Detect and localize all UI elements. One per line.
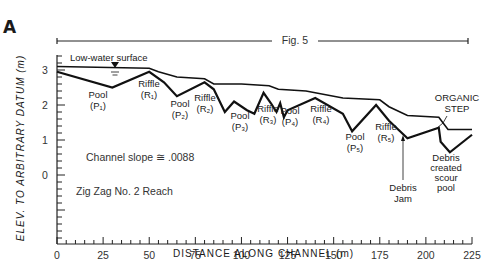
debris-jam-label: Jam: [394, 193, 412, 204]
x-tick-label: 200: [417, 249, 435, 260]
riffle-r4-label: (R₄): [312, 114, 329, 125]
pool-p3-label: Pool: [230, 110, 249, 121]
pool-p2-label: Pool: [170, 98, 189, 109]
scour-pool-label: pool: [437, 182, 455, 193]
x-tick-label: 0: [54, 249, 60, 260]
reach-name-label: Zig Zag No. 2 Reach: [76, 185, 173, 197]
pool-p4-label: Pool: [280, 105, 299, 116]
pool-p5-label: (P₅): [347, 142, 364, 153]
riffle-r2-label: (R₂): [197, 103, 214, 114]
organic-step-label: STEP: [445, 103, 470, 114]
pool-p3-label: (P₃): [232, 121, 249, 132]
x-tick-label: 25: [97, 249, 109, 260]
riffle-r3-label: Riffle: [257, 103, 278, 114]
riffle-r1-label: Riffle: [138, 78, 159, 89]
riffle-r3-label: (R₃): [259, 114, 276, 125]
pool-p1-label: (P₁): [90, 100, 106, 111]
figure-ref-label: Fig. 5: [282, 34, 308, 46]
x-tick-label: 225: [463, 249, 481, 260]
pool-p5-label: Pool: [345, 131, 364, 142]
riffle-r5-label: (R₅): [377, 132, 394, 143]
profile-chart: Fig. 501230255075100125150175200225DISTA…: [0, 0, 502, 260]
x-tick-label: 175: [371, 249, 389, 260]
riffle-r2-label: Riffle: [194, 92, 215, 103]
y-axis-title: ELEV. TO ARBITRARY DATUM (m): [15, 55, 26, 242]
pool-p4-label: (P₄): [282, 116, 299, 127]
x-axis-title: DISTANCE ALONG CHANNEL (m): [173, 248, 354, 259]
pool-p2-label: (P₂): [172, 109, 188, 120]
pool-p1-label: Pool: [88, 89, 107, 100]
riffle-r5-label: Riffle: [375, 121, 396, 132]
y-tick-label: 3: [42, 64, 48, 76]
y-tick-label: 1: [42, 134, 48, 146]
channel-slope-label: Channel slope ≅ .0088: [86, 151, 194, 163]
organic-step-label: ORGANIC: [435, 92, 479, 103]
low-water-label: Low-water surface: [70, 52, 148, 63]
y-tick-label: 2: [42, 99, 48, 111]
riffle-r1-label: (R₁): [141, 89, 157, 100]
y-tick-label: 0: [42, 169, 48, 181]
riffle-r4-label: Riffle: [310, 103, 331, 114]
x-tick-label: 50: [143, 249, 155, 260]
debris-jam-label: Debris: [389, 182, 417, 193]
